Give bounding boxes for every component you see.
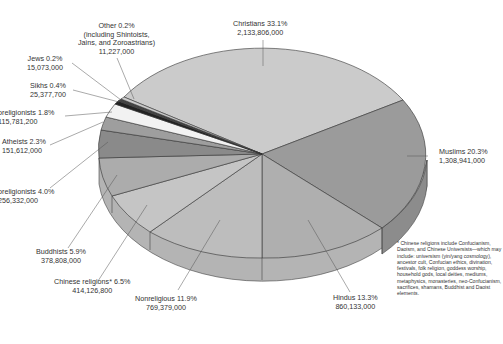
label-hindus: Hindus 13.3% 860,133,000: [333, 294, 378, 311]
pie-top: [98, 48, 425, 258]
label-christians: Christians 33.1% 2,133,806,000: [233, 20, 287, 37]
label-buddhists: Buddhists 5.9% 378,808,000: [36, 248, 86, 265]
label-neoreligionists: oreligionists 1.8% 115,781,200: [0, 109, 54, 126]
label-chinese-religions: Chinese religions* 6.5% 414,126,800: [54, 278, 130, 295]
label-sikhs: Sikhs 0.4% 25,377,700: [30, 82, 66, 99]
label-atheists: Atheists 2.3% 151,612,000: [2, 138, 46, 155]
label-other: Other 0.2% (including Shintoists, Jains,…: [78, 22, 155, 56]
label-ethnoreligionists: oreligionists 4.0% 256,332,000: [0, 188, 54, 205]
footnote: * Chinese religions include Confucianism…: [397, 240, 503, 297]
label-nonreligious: Nonreligious 11.9% 769,379,000: [135, 295, 197, 312]
label-muslims: Muslims 20.3% 1,308,941,000: [439, 148, 488, 165]
label-jews: Jews 0.2% 15,073,000: [27, 55, 63, 72]
